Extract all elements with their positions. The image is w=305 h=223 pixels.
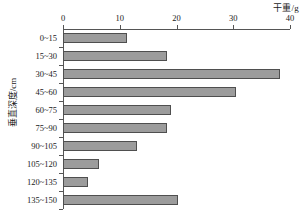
plot-area: 010203040 0~1515~3030~4545~6060~7575~909…	[63, 29, 290, 209]
y-tick-label: 105~120	[27, 159, 57, 169]
bar	[63, 33, 127, 43]
y-tick-label: 75~90	[35, 123, 57, 133]
bar	[63, 123, 167, 133]
y-tick	[59, 173, 63, 174]
y-tick	[59, 83, 63, 84]
y-tick	[59, 137, 63, 138]
x-tick	[290, 25, 291, 29]
bar	[63, 159, 99, 169]
x-tick	[120, 25, 121, 29]
x-tick	[63, 25, 64, 29]
y-tick-label: 60~75	[35, 105, 57, 115]
y-tick-label: 15~30	[35, 51, 57, 61]
x-tick	[177, 25, 178, 29]
y-tick	[59, 101, 63, 102]
x-tick-label: 10	[116, 13, 125, 23]
bar-chart: 干重/g 垂直深度/cm 010203040 0~1515~3030~4545~…	[0, 0, 305, 223]
y-tick	[59, 119, 63, 120]
y-tick-label: 30~45	[35, 69, 57, 79]
y-tick-label: 135~150	[27, 195, 57, 205]
y-tick	[59, 47, 63, 48]
y-axis-title: 垂直深度/cm	[6, 63, 19, 143]
y-tick	[59, 191, 63, 192]
y-tick-label: 45~60	[35, 87, 57, 97]
x-axis-line	[63, 29, 290, 30]
x-tick-label: 40	[286, 13, 295, 23]
y-tick	[59, 65, 63, 66]
y-tick-label: 90~105	[31, 141, 57, 151]
bar	[63, 177, 88, 187]
bar	[63, 105, 171, 115]
y-tick	[59, 209, 63, 210]
y-tick-label: 0~15	[40, 33, 57, 43]
y-tick	[59, 155, 63, 156]
bar	[63, 51, 167, 61]
x-tick-label: 20	[172, 13, 181, 23]
bar	[63, 69, 280, 79]
bar	[63, 195, 178, 205]
x-tick-label: 30	[229, 13, 238, 23]
x-tick	[233, 25, 234, 29]
x-tick-label: 0	[61, 13, 65, 23]
bar	[63, 87, 236, 97]
y-tick-label: 120~135	[27, 177, 57, 187]
bar	[63, 141, 137, 151]
